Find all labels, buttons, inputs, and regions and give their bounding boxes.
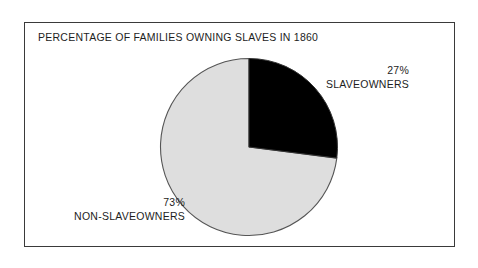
chart-title: PERCENTAGE OF FAMILIES OWNING SLAVES IN … [38,31,318,43]
pie-slice-slaveowners [249,59,337,159]
non-slaveowners-name: NON-SLAVEOWNERS [37,209,185,223]
non-slaveowners-percent: 73% [37,195,185,209]
pie-svg [159,57,339,237]
slaveowners-name: SLAVEOWNERS [326,77,409,91]
pie-chart [159,57,339,237]
pie-chart-figure: PERCENTAGE OF FAMILIES OWNING SLAVES IN … [0,0,478,268]
slaveowners-percent: 27% [326,63,409,77]
slice-label-non-slaveowners: 73% NON-SLAVEOWNERS [37,195,185,223]
slice-label-slaveowners: 27% SLAVEOWNERS [326,63,409,91]
